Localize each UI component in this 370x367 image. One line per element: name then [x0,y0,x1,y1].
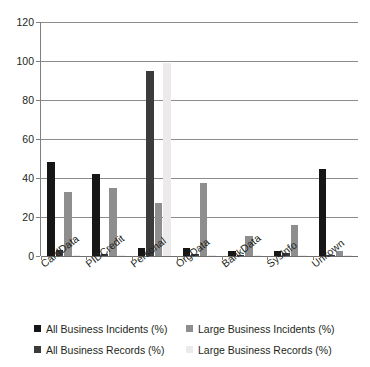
bar-group-orgdata [177,22,222,256]
legend-label-2: Large Business Incidents (%) [198,323,335,335]
bar-orgdata-series-3 [208,255,216,256]
chart-legend: All Business Incidents (%)Large Business… [34,318,364,360]
y-tick-mark-60 [36,139,40,140]
bar-personal-series-3 [163,63,171,256]
bar-pidcredit-series-0 [92,174,100,256]
legend-item-3[interactable]: Large Business Records (%) [186,344,364,356]
bar-pidcredit-series-3 [118,255,126,256]
bar-group-unkown [313,22,358,256]
x-label-cell: SysInfo [267,258,312,308]
legend-swatch-icon-0 [34,325,41,332]
y-tick-mark-40 [36,178,40,179]
bar-chart: 020406080100120 CardDataPIDCreditPersona… [0,0,370,367]
bar-sysinfo-series-3 [299,255,307,256]
legend-swatch-icon-1 [34,346,41,353]
bar-group-bankdata [222,22,267,256]
legend-swatch-icon-2 [186,325,193,332]
y-tick-label-60: 60 [4,134,34,144]
legend-label-0: All Business Incidents (%) [46,323,167,335]
x-label-cell: BankData [222,258,267,308]
bar-personal-series-1 [146,71,154,256]
legend-item-1[interactable]: All Business Records (%) [34,344,186,356]
legend-item-2[interactable]: Large Business Incidents (%) [186,323,364,335]
x-label-cell: Unkown [313,258,358,308]
y-tick-mark-20 [36,217,40,218]
y-tick-label-20: 20 [4,212,34,222]
legend-label-1: All Business Records (%) [46,344,164,356]
bar-unkown-series-3 [344,255,352,256]
bar-group-pidcredit [86,22,131,256]
y-tick-mark-80 [36,100,40,101]
y-tick-mark-100 [36,61,40,62]
y-tick-mark-0 [36,256,40,257]
y-tick-label-0: 0 [4,251,34,261]
bar-group-sysinfo [267,22,312,256]
y-tick-label-100: 100 [4,56,34,66]
x-label-cell: PIDCredit [86,258,131,308]
bar-groups [41,22,358,256]
x-label-cell: Personal [132,258,177,308]
bar-unkown-series-0 [319,169,327,256]
bar-carddata-series-0 [47,162,55,256]
legend-item-0[interactable]: All Business Incidents (%) [34,323,186,335]
y-tick-label-80: 80 [4,95,34,105]
y-tick-mark-120 [36,22,40,23]
bar-carddata-series-3 [73,255,81,256]
x-axis-labels: CardDataPIDCreditPersonalOrgDataBankData… [41,258,358,308]
bar-group-personal [132,22,177,256]
x-label-cell: OrgData [177,258,222,308]
bar-group-carddata [41,22,86,256]
legend-label-3: Large Business Records (%) [198,344,332,356]
x-label-cell: CardData [41,258,86,308]
bar-bankdata-series-3 [254,255,262,256]
legend-swatch-icon-3 [186,346,193,353]
y-tick-label-120: 120 [4,17,34,27]
y-tick-label-40: 40 [4,173,34,183]
